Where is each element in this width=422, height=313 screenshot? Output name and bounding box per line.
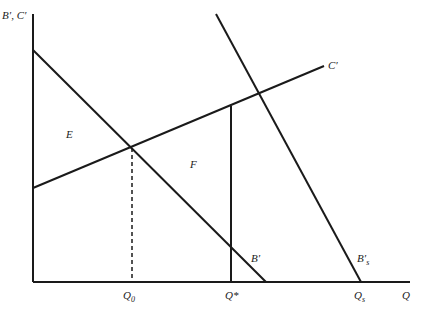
y-axis-label: B′, C′ xyxy=(2,9,27,21)
curve-bs-prime xyxy=(216,14,361,282)
curve-c-prime xyxy=(33,66,324,188)
tick-q0: Q0 xyxy=(123,289,135,304)
label-c-prime: C′ xyxy=(328,59,338,71)
tick-qstar: Q* xyxy=(225,289,239,301)
tick-qs: Qs xyxy=(354,289,365,304)
region-e-label: E xyxy=(65,128,73,140)
label-bs-prime: B′s xyxy=(357,252,369,267)
x-axis-label: Q xyxy=(402,289,410,301)
label-b-prime: B′ xyxy=(251,252,261,264)
region-f-label: F xyxy=(189,158,197,170)
diagram-canvas: B′, C′ C′ E F B′ B′s Q0 Q* Qs Q xyxy=(0,0,422,313)
